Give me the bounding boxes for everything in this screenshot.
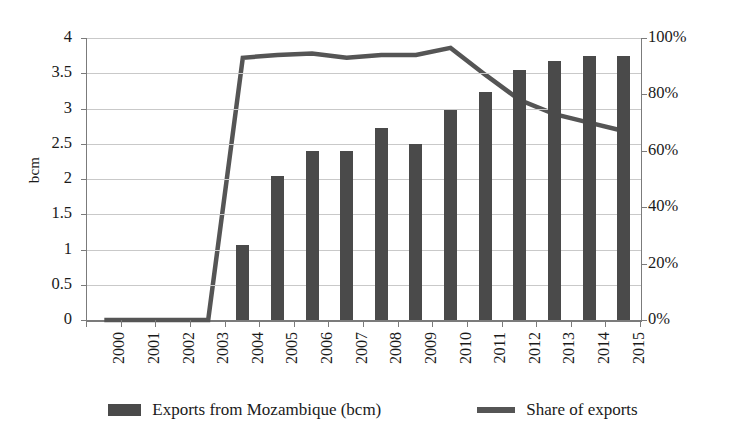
y2-axis-tick-label: 20%: [648, 255, 728, 272]
x-axis-label-2010: 2010: [458, 332, 474, 394]
y2-axis-tick-label: 0%: [648, 311, 728, 328]
x-axis-tick-mark: [328, 320, 329, 327]
y-axis-tick-mark: [81, 250, 87, 251]
y-axis-tick-mark: [81, 285, 87, 286]
bar-2013: [548, 61, 561, 320]
y-axis-tick-label: 1.5: [20, 205, 72, 222]
x-axis-label-2001: 2001: [146, 332, 162, 394]
axis-baseline: [86, 320, 642, 322]
bar-2012: [513, 70, 526, 320]
y-axis-tick-label: 1: [20, 241, 72, 258]
y2-axis-tick-mark: [641, 320, 647, 321]
y2-axis-tick-label: 100%: [648, 29, 728, 46]
y-axis-right: 0%20%40%60%80%100%: [648, 0, 728, 445]
y-axis-tick-mark: [81, 179, 87, 180]
x-axis-tick-mark: [259, 320, 260, 327]
x-axis-label-2004: 2004: [250, 332, 266, 394]
bar-2005: [271, 176, 284, 320]
chart-legend: Exports from Mozambique (bcm)Share of ex…: [0, 400, 746, 420]
gridline: [87, 38, 641, 39]
x-axis-tick-mark: [605, 320, 606, 327]
y2-axis-tick-label: 60%: [648, 142, 728, 159]
x-axis-tick-mark: [86, 320, 87, 327]
legend-item-1[interactable]: Exports from Mozambique (bcm): [108, 400, 381, 420]
x-axis-label-2006: 2006: [319, 332, 335, 394]
plot-area: [86, 38, 642, 320]
x-axis-label-2011: 2011: [492, 332, 508, 394]
y2-axis-tick-mark: [641, 151, 647, 152]
bar-2011: [479, 92, 492, 320]
bar-2015: [617, 56, 630, 320]
chart-container: bcm 00.511.522.533.54 0%20%40%60%80%100%…: [0, 0, 746, 445]
bar-2008: [375, 128, 388, 320]
y2-axis-tick-mark: [641, 94, 647, 95]
y2-axis-tick-mark: [641, 207, 647, 208]
x-axis-label-2007: 2007: [354, 332, 370, 394]
bar-2010: [444, 110, 457, 320]
x-axis-label-2009: 2009: [423, 332, 439, 394]
x-axis-label-2013: 2013: [561, 332, 577, 394]
bar-2009: [409, 144, 422, 320]
x-axis-label-2003: 2003: [215, 332, 231, 394]
x-axis-tick-mark: [294, 320, 295, 327]
x-axis-tick-mark: [155, 320, 156, 327]
y2-axis-tick-mark: [641, 264, 647, 265]
legend-label: Exports from Mozambique (bcm): [152, 400, 381, 420]
y2-axis-tick-label: 40%: [648, 198, 728, 215]
y-axis-tick-label: 3: [20, 100, 72, 117]
x-axis-tick-mark: [225, 320, 226, 327]
y-axis-left: 00.511.522.533.54: [20, 0, 72, 445]
bar-2007: [340, 151, 353, 320]
legend-label: Share of exports: [526, 400, 637, 420]
y2-axis-tick-mark: [641, 38, 647, 39]
y-axis-tick-mark: [81, 73, 87, 74]
x-axis-label-2002: 2002: [181, 332, 197, 394]
bar-2004: [236, 245, 249, 320]
y-axis-tick-label: 4: [20, 29, 72, 46]
x-axis-tick-mark: [502, 320, 503, 327]
y-axis-tick-mark: [81, 144, 87, 145]
y-axis-tick-label: 3.5: [20, 64, 72, 81]
legend-line-swatch-icon: [477, 407, 515, 413]
y-axis-tick-mark: [81, 109, 87, 110]
y-axis-tick-label: 0.5: [20, 276, 72, 293]
y-axis-tick-mark: [81, 214, 87, 215]
x-axis-label-2000: 2000: [111, 332, 127, 394]
y-axis-tick-label: 2.5: [20, 135, 72, 152]
y-axis-tick-label: 2: [20, 170, 72, 187]
x-axis-tick-mark: [432, 320, 433, 327]
y2-axis-tick-label: 80%: [648, 85, 728, 102]
x-axis-tick-mark: [121, 320, 122, 327]
x-axis-tick-mark: [190, 320, 191, 327]
legend-bar-swatch-icon: [108, 404, 141, 416]
x-axis-label-2005: 2005: [284, 332, 300, 394]
x-axis-label-2012: 2012: [527, 332, 543, 394]
x-axis-tick-mark: [571, 320, 572, 327]
x-axis-label-2008: 2008: [388, 332, 404, 394]
x-axis-tick-mark: [363, 320, 364, 327]
x-axis-tick-mark: [398, 320, 399, 327]
legend-item-2[interactable]: Share of exports: [477, 400, 637, 420]
y-axis-tick-label: 0: [20, 311, 72, 328]
x-axis-label-2015: 2015: [631, 332, 647, 394]
x-axis-tick-mark: [640, 320, 641, 327]
x-axis-tick-mark: [467, 320, 468, 327]
bar-2014: [583, 56, 596, 320]
x-axis-tick-mark: [536, 320, 537, 327]
x-axis-label-2014: 2014: [596, 332, 612, 394]
bar-2006: [306, 151, 319, 320]
y-axis-tick-mark: [81, 38, 87, 39]
